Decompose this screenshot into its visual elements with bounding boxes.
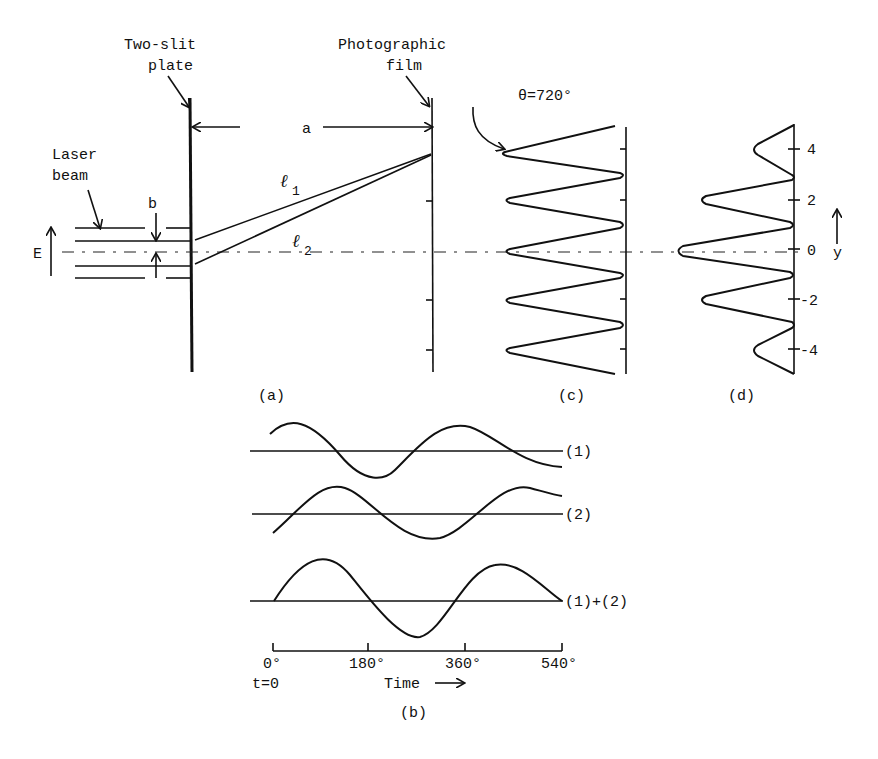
tick-360deg: 360° bbox=[445, 656, 481, 673]
y-tick-neg4: -4 bbox=[800, 343, 818, 360]
path-l1-label: ℓ bbox=[280, 171, 288, 191]
y-tick-0: 0 bbox=[807, 243, 816, 260]
y-tick-neg2: -2 bbox=[800, 293, 818, 310]
panel-d-intensity-curve bbox=[679, 125, 795, 374]
path-l1-subscript: 1 bbox=[292, 184, 300, 199]
panel-c-ticks bbox=[620, 149, 626, 349]
panel-d-caption: (d) bbox=[728, 388, 755, 405]
photographic-film-label-2: film bbox=[386, 58, 422, 75]
panel-a-caption: (a) bbox=[258, 388, 285, 405]
time-label: Time bbox=[384, 676, 420, 693]
y-tick-4: 4 bbox=[807, 142, 816, 159]
tick-0deg: 0° bbox=[263, 656, 281, 673]
time-axis-ticks bbox=[273, 643, 562, 651]
two-slit-plate-label: Two-slit bbox=[124, 37, 196, 54]
t0-label: t=0 bbox=[252, 676, 279, 693]
plate-pointer-arrow bbox=[168, 76, 189, 107]
panel-c: θ=720° (c) bbox=[473, 88, 626, 405]
wave-2-curve bbox=[273, 487, 562, 539]
sum-curve bbox=[274, 559, 562, 637]
y-axis-label: y bbox=[833, 245, 842, 262]
panel-c-curve bbox=[503, 126, 623, 374]
tick-180deg: 180° bbox=[349, 656, 385, 673]
laser-beam-lines bbox=[75, 228, 190, 278]
two-slit-plate bbox=[190, 98, 192, 372]
two-slit-diagram: Two-slit plate Photographic film Laser b… bbox=[0, 0, 878, 759]
wave-2-label: (2) bbox=[565, 507, 592, 524]
laser-beam-label-2: beam bbox=[52, 168, 88, 185]
theta-720-annotation: θ=720° bbox=[518, 88, 572, 105]
photographic-film bbox=[432, 98, 433, 372]
photographic-film-label: Photographic bbox=[338, 37, 446, 54]
path-l2-label: ℓ bbox=[292, 231, 300, 251]
panel-b: (1) (2) (1)+(2) 0° 180° 360° 540° t=0 Ti… bbox=[250, 423, 628, 722]
two-slit-plate-label-2: plate bbox=[148, 58, 193, 75]
path-l2 bbox=[195, 155, 431, 264]
y-tick-2: 2 bbox=[807, 193, 816, 210]
e-field-label: E bbox=[33, 246, 42, 263]
panel-a: Two-slit plate Photographic film Laser b… bbox=[33, 37, 800, 405]
distance-a-label: a bbox=[302, 121, 311, 138]
film-pointer-arrow bbox=[406, 76, 429, 106]
slit-separation-b-label: b bbox=[148, 196, 157, 213]
theta-pointer-arrow bbox=[473, 107, 504, 149]
panel-b-caption: (b) bbox=[400, 705, 427, 722]
path-l1 bbox=[195, 154, 431, 240]
sum-label: (1)+(2) bbox=[565, 594, 628, 611]
laser-beam-label: Laser bbox=[52, 147, 97, 164]
panel-d: 4 2 0 -2 -4 y (d) bbox=[679, 124, 843, 405]
tick-540deg: 540° bbox=[541, 656, 577, 673]
laser-pointer-arrow bbox=[88, 190, 100, 228]
wave-1-label: (1) bbox=[565, 444, 592, 461]
path-l2-subscript: 2 bbox=[304, 244, 312, 259]
panel-c-caption: (c) bbox=[558, 388, 585, 405]
